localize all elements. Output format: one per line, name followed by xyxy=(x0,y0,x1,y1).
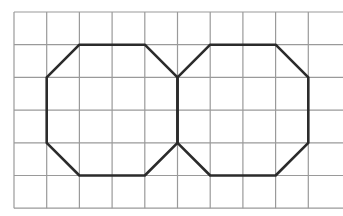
grid-diagram xyxy=(0,0,343,216)
